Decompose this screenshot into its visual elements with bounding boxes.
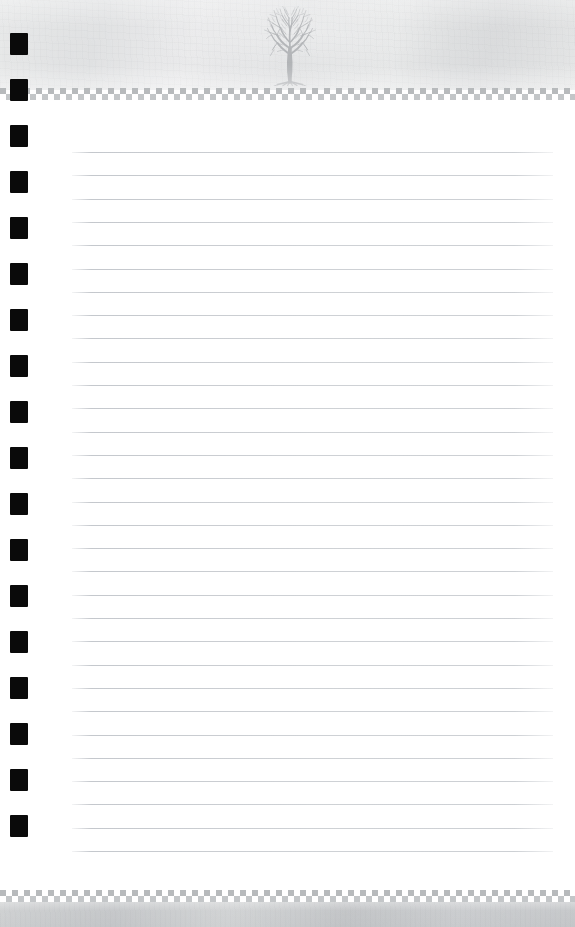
margin-square: [10, 631, 28, 653]
tree-icon: [262, 6, 318, 86]
margin-square: [10, 815, 28, 837]
rule-line: [72, 804, 553, 805]
margin-square: [10, 585, 28, 607]
rule-line: [72, 828, 553, 829]
rule-line: [72, 432, 553, 433]
rule-line: [72, 245, 553, 246]
margin-square: [10, 769, 28, 791]
margin-square: [10, 401, 28, 423]
margin-square: [10, 447, 28, 469]
page-header-band: [0, 0, 575, 90]
rule-line: [72, 222, 553, 223]
margin-square: [10, 263, 28, 285]
checker-border-top: [0, 88, 575, 100]
note-body[interactable]: [0, 100, 575, 890]
rule-line: [72, 758, 553, 759]
page-footer-band: [0, 902, 575, 927]
rule-line: [72, 455, 553, 456]
footer-paper-texture: [0, 902, 575, 927]
margin-square: [10, 79, 28, 101]
rule-line: [72, 315, 553, 316]
rule-line: [72, 478, 553, 479]
rule-line: [72, 525, 553, 526]
rule-line: [72, 362, 553, 363]
rule-line: [72, 292, 553, 293]
rule-line: [72, 338, 553, 339]
rule-line: [72, 641, 553, 642]
rule-line: [72, 618, 553, 619]
margin-square: [10, 539, 28, 561]
rule-line: [72, 408, 553, 409]
margin-square: [10, 171, 28, 193]
rule-line: [72, 152, 553, 153]
margin-square: [10, 355, 28, 377]
rule-line: [72, 688, 553, 689]
rule-line: [72, 175, 553, 176]
rule-line: [72, 735, 553, 736]
margin-square: [10, 723, 28, 745]
rule-line: [72, 711, 553, 712]
stationery-page: [0, 0, 575, 927]
margin-square: [10, 125, 28, 147]
margin-square: [10, 309, 28, 331]
footer-highlight: [0, 902, 575, 927]
rule-line: [72, 781, 553, 782]
margin-square: [10, 493, 28, 515]
rule-line: [72, 548, 553, 549]
checker-border-bottom: [0, 890, 575, 902]
rule-line: [72, 571, 553, 572]
margin-square: [10, 217, 28, 239]
margin-square: [10, 677, 28, 699]
rule-line: [72, 595, 553, 596]
rule-line: [72, 269, 553, 270]
rule-line: [72, 385, 553, 386]
margin-square: [10, 33, 28, 55]
rule-line: [72, 851, 553, 852]
rule-line: [72, 199, 553, 200]
rule-line: [72, 665, 553, 666]
rule-line: [72, 502, 553, 503]
